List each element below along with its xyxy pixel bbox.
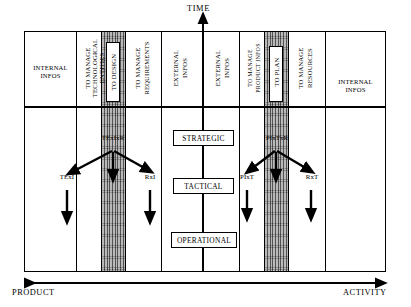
level-box-operational-label: OPERATIONAL: [177, 236, 231, 245]
axis-label-activity: ACTIVITY: [343, 288, 387, 297]
level-box-tactical-label: TACTICAL: [184, 182, 222, 191]
flow-label-plan-source: PIxTxR: [256, 134, 298, 141]
arrow-plan-to-right: [277, 151, 309, 170]
arrow-design-to-left: [72, 151, 112, 172]
flow-label-design-left: TExI: [52, 173, 82, 180]
arrow-plan-to-left: [250, 151, 275, 170]
arrow-design-to-right: [114, 151, 148, 170]
diagram-canvas: INTERNAL INFOS TO MANAGE TECHNOLOGICAL E…: [0, 0, 411, 307]
flow-label-plan-right: RxT: [299, 173, 325, 180]
axis-label-product: PRODUCT: [12, 288, 55, 297]
level-box-operational[interactable]: OPERATIONAL: [171, 232, 237, 248]
level-box-strategic[interactable]: STRATEGIC: [173, 130, 234, 146]
axes-layer: [0, 0, 411, 307]
flow-label-plan-left: PIxT: [234, 173, 260, 180]
flow-label-design-right: RxI: [136, 173, 164, 180]
flow-label-design-source: TExIxR: [93, 134, 133, 141]
level-box-strategic-label: STRATEGIC: [182, 134, 225, 143]
time-axis-label: TIME: [187, 4, 210, 13]
level-box-tactical[interactable]: TACTICAL: [173, 178, 234, 194]
